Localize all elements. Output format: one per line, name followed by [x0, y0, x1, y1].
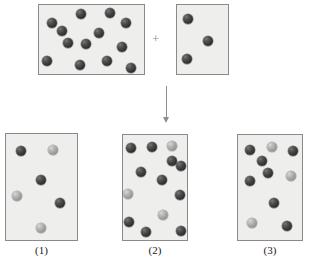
product-label-1: (1)	[5, 244, 78, 256]
product-label-2: (2)	[122, 244, 188, 256]
plus-sign-icon: +	[152, 32, 159, 45]
reaction-arrow-icon	[163, 117, 169, 123]
reaction-arrow-shaft	[166, 86, 167, 118]
product-label-3: (3)	[237, 244, 303, 256]
reaction-diagram: + (1) (2) (3)	[0, 0, 310, 266]
